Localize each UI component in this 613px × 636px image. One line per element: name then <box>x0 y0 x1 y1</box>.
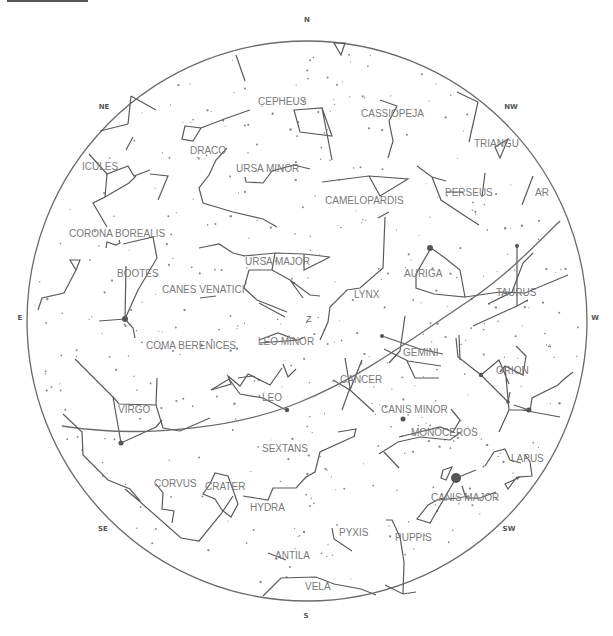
star-dot <box>102 475 104 477</box>
star-dot <box>486 444 488 446</box>
star-dot <box>438 446 440 448</box>
constellation-line <box>243 429 356 500</box>
ecliptic-line <box>62 221 560 431</box>
star-dot <box>170 496 172 498</box>
star-dot <box>89 259 91 261</box>
star-dot <box>289 566 291 568</box>
constellation-line <box>385 585 416 594</box>
star-dot <box>507 254 508 255</box>
star-dot <box>546 344 548 346</box>
constellation-label: AR <box>535 187 549 198</box>
star-dot <box>182 122 183 123</box>
star-dot <box>334 341 335 342</box>
constellation-line <box>156 484 174 523</box>
star-dot <box>350 61 351 62</box>
compass-label-nw: NW <box>504 103 518 111</box>
star-dot <box>412 451 414 453</box>
star-dot <box>371 403 372 404</box>
star-dot <box>222 120 224 122</box>
star-dot <box>327 343 329 345</box>
star-dot <box>107 473 108 474</box>
star-dot <box>495 193 497 195</box>
star-dot <box>444 440 445 441</box>
star-dot <box>459 247 461 249</box>
star-dot <box>183 309 185 311</box>
star-dot <box>297 536 298 537</box>
star-dot <box>317 111 319 113</box>
zenith-marker: Z <box>306 314 312 324</box>
star-dot <box>340 227 342 229</box>
star-dot <box>381 168 383 170</box>
star-dot <box>60 355 62 357</box>
star-dot <box>538 220 540 222</box>
star-dot <box>142 112 143 113</box>
constellation-label: HYDRA <box>250 502 285 513</box>
star-dot <box>89 319 90 320</box>
star-dot <box>404 453 405 454</box>
star-dot <box>342 81 343 82</box>
star-dot <box>370 55 371 56</box>
star-dot <box>334 104 335 105</box>
star-dot <box>319 254 320 255</box>
star-dot <box>235 418 236 419</box>
star-dot <box>560 269 561 270</box>
star-dot <box>355 210 356 211</box>
star-dot <box>129 324 130 325</box>
star-dot <box>520 386 521 387</box>
bright-star <box>380 334 384 338</box>
star-dot <box>102 333 103 334</box>
bright-star <box>122 316 128 322</box>
star-dot <box>189 84 190 85</box>
star-dot <box>295 548 296 549</box>
star-dot <box>326 556 327 557</box>
star-dot <box>553 357 554 358</box>
star-dot <box>390 95 391 96</box>
star-dot <box>155 528 157 530</box>
star-dot <box>362 95 364 97</box>
constellation-label: TAURUS <box>496 287 537 298</box>
star-dot <box>290 364 292 366</box>
compass-label-sw: SW <box>503 525 516 533</box>
constellation-line <box>128 96 156 124</box>
star-dot <box>483 466 485 468</box>
constellation-label: BOOTES <box>117 268 159 279</box>
star-dot <box>336 524 338 526</box>
star-dot <box>428 440 430 442</box>
star-dot <box>232 429 234 431</box>
star-dot <box>253 529 255 531</box>
constellation-label: CANCER <box>340 374 382 385</box>
star-dot <box>470 327 472 329</box>
star-dot <box>244 191 246 193</box>
star-dot <box>237 325 239 327</box>
star-dot <box>484 204 486 206</box>
star-dot <box>303 358 305 360</box>
star-dot <box>225 126 226 127</box>
star-dot <box>464 373 466 375</box>
star-dot <box>332 381 333 382</box>
compass-label-ne: NE <box>99 103 110 111</box>
constellation-label: CEPHEUS <box>258 96 307 107</box>
constellation-label: LEO MINOR <box>258 336 314 347</box>
star-dot <box>465 340 466 341</box>
star-dot <box>305 494 307 496</box>
star-dot <box>234 92 235 93</box>
star-dot <box>381 129 383 131</box>
star-dot <box>257 446 259 448</box>
star-dot <box>463 131 464 132</box>
star-dot <box>271 440 272 441</box>
star-dot <box>204 158 205 159</box>
star-dot <box>324 132 326 134</box>
star-dot <box>369 356 370 357</box>
star-dot <box>139 418 141 420</box>
star-dot <box>155 294 156 295</box>
star-dot <box>375 414 376 415</box>
star-dot <box>77 436 79 438</box>
star-dot <box>420 302 421 303</box>
constellation-line <box>200 296 216 298</box>
star-dot <box>364 97 365 98</box>
star-dot <box>313 333 315 335</box>
star-dot <box>510 228 511 229</box>
star-dot <box>314 195 315 196</box>
star-dot <box>50 386 52 388</box>
star-dot <box>313 57 315 59</box>
